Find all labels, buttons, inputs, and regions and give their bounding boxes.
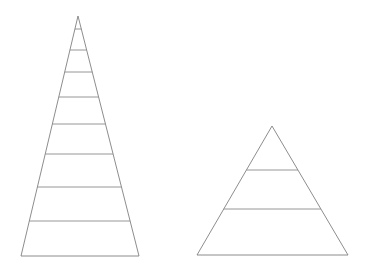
canvas-background xyxy=(0,0,365,268)
pyramid-diagram xyxy=(0,0,365,268)
diagram-canvas xyxy=(0,0,365,268)
